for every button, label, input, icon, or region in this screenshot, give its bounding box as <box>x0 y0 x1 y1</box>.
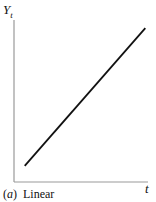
linear-trend-line <box>25 28 146 166</box>
chart-plot <box>0 0 156 202</box>
chart-caption: (a) Linear <box>3 187 54 202</box>
x-axis-label: t <box>145 181 149 197</box>
